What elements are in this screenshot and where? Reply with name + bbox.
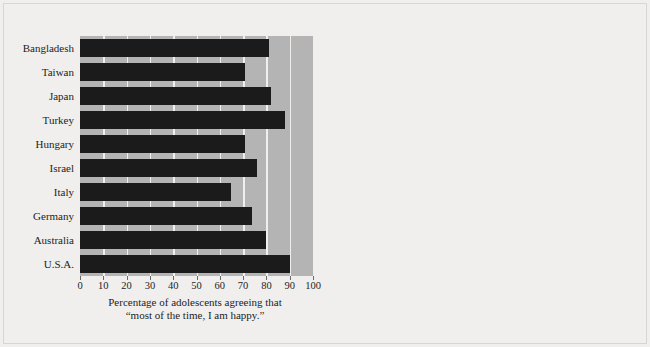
axis-tick-label: 80 <box>261 280 272 291</box>
bar-row <box>80 204 313 228</box>
panel-away-from-home: 0102030405060708090100 Percentage of ado… <box>330 0 650 347</box>
bar-row <box>80 84 313 108</box>
bar <box>80 135 245 153</box>
bar-row <box>80 180 313 204</box>
axis-tick-label: 10 <box>98 280 109 291</box>
category-label: Israel <box>50 156 74 180</box>
bar <box>80 159 257 177</box>
bar <box>80 39 269 57</box>
category-label: Taiwan <box>42 60 74 84</box>
axis-tick-label: 0 <box>77 280 82 291</box>
axis-tick-label: 70 <box>238 280 249 291</box>
bar-row <box>80 252 313 276</box>
category-label: Bangladesh <box>23 36 74 60</box>
bar <box>80 63 245 81</box>
category-label: Hungary <box>36 132 75 156</box>
caption-happy-line2: “most of the time, I am happy.” <box>60 309 330 322</box>
bars-happy <box>80 36 313 276</box>
axis-tick-label: 90 <box>284 280 295 291</box>
bar <box>80 255 290 273</box>
category-axis-labels: BangladeshTaiwanJapanTurkeyHungaryIsrael… <box>0 36 76 276</box>
plot-area-happy <box>80 36 313 276</box>
caption-happy-line1: Percentage of adolescents agreeing that <box>60 296 330 309</box>
category-label: Japan <box>49 84 74 108</box>
bar <box>80 183 231 201</box>
panel-happy: BangladeshTaiwanJapanTurkeyHungaryIsrael… <box>0 0 330 347</box>
axis-tick-label: 60 <box>215 280 226 291</box>
category-label: Germany <box>33 204 74 228</box>
axis-tick-label: 30 <box>145 280 156 291</box>
bar <box>80 207 252 225</box>
bar <box>80 87 271 105</box>
axis-tick-label: 50 <box>191 280 202 291</box>
category-label: Turkey <box>43 108 74 132</box>
bar <box>80 111 285 129</box>
bar-row <box>80 132 313 156</box>
category-label: Italy <box>54 180 74 204</box>
bar-row <box>80 228 313 252</box>
bar <box>80 231 266 249</box>
axis-tick-label: 20 <box>121 280 132 291</box>
bar-row <box>80 108 313 132</box>
bar-row <box>80 36 313 60</box>
category-label: U.S.A. <box>44 252 74 276</box>
bar-row <box>80 156 313 180</box>
axis-tick-label: 40 <box>168 280 179 291</box>
caption-happy: Percentage of adolescents agreeing that … <box>60 296 330 322</box>
axis-tick-label: 100 <box>305 280 321 291</box>
bar-row <box>80 60 313 84</box>
category-label: Australia <box>34 228 74 252</box>
chart-figure: BangladeshTaiwanJapanTurkeyHungaryIsrael… <box>0 0 650 347</box>
x-axis-happy: 0102030405060708090100 <box>80 276 313 292</box>
